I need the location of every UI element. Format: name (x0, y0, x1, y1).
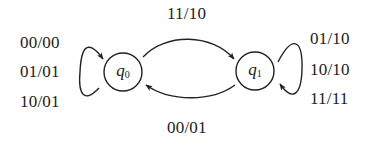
edge-label-q0-to-q1: 11/10 (167, 4, 206, 24)
loop-label-q1-3: 11/11 (310, 89, 348, 109)
edge-label-q1-to-q0: 00/01 (167, 118, 207, 138)
state-q1-name: q (248, 60, 257, 79)
state-q0-subscript: 0 (125, 69, 130, 80)
self-loop-q0 (80, 47, 103, 96)
state-q0-label: q0 (108, 61, 138, 85)
loop-label-q0-1: 00/00 (20, 33, 60, 53)
edge-q1-to-q0 (146, 85, 235, 98)
loop-label-q0-3: 10/01 (20, 92, 60, 112)
loop-label-q1-1: 01/10 (310, 29, 350, 49)
loop-label-q1-2: 10/10 (310, 60, 350, 80)
state-q0-name: q (116, 61, 125, 80)
state-q1-label: q1 (240, 60, 270, 84)
state-q1-subscript: 1 (257, 68, 262, 79)
self-loop-q1 (278, 44, 302, 94)
loop-label-q0-2: 01/01 (20, 62, 60, 82)
edge-q0-to-q1 (143, 39, 234, 59)
